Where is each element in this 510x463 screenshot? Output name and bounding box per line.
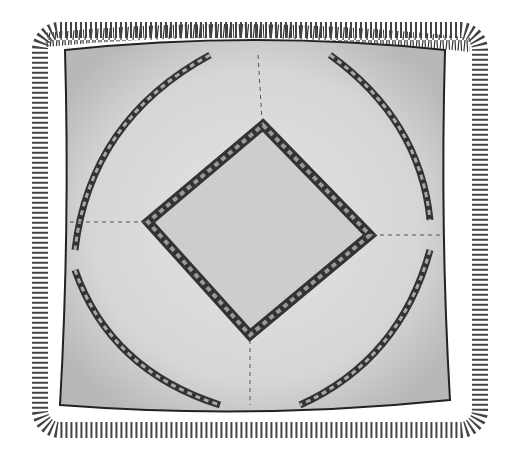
pillow-drawing: [0, 0, 510, 463]
pillow-illustration: [0, 0, 510, 463]
